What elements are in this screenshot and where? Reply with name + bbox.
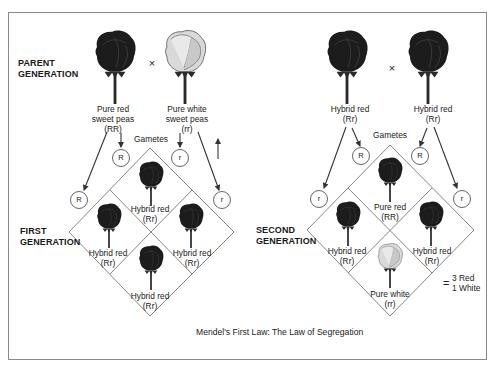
offspring-rose-top xyxy=(139,162,163,206)
arrow-outer-right xyxy=(434,127,457,188)
label-line: Pure red xyxy=(374,202,406,212)
figure-caption: Mendel's First Law: The Law of Segregati… xyxy=(196,327,363,337)
label-line: (Rr) xyxy=(173,258,212,268)
label-line: Pure white xyxy=(370,289,410,299)
label-line: GENERATION xyxy=(18,69,78,80)
parent-label-pure-red: Pure red sweet peas (RR) xyxy=(92,104,134,134)
label-line: sweet peas xyxy=(166,114,208,124)
second-generation-label: SECOND GENERATION xyxy=(256,225,316,247)
label-line: (Rr) xyxy=(414,114,453,124)
gamete-outer-1: r xyxy=(318,194,321,204)
gamete-inner-2: R xyxy=(417,151,422,161)
arrow-inner-right xyxy=(420,128,427,146)
offspring-rose-right xyxy=(419,202,443,246)
parent-label-hybrid-2: Hybrid red (Rr) xyxy=(414,104,453,124)
label-line: (Rr) xyxy=(131,214,170,224)
label-line: Hybrid red xyxy=(89,248,128,258)
offspring-label-left: Hybrid red (Rr) xyxy=(328,246,367,266)
gametes-label-left: Gametes xyxy=(134,134,168,144)
label-line: (RR) xyxy=(92,124,134,134)
parent-generation-label: PARENT GENERATION xyxy=(18,58,78,80)
parent-label-pure-white: Pure white sweet peas (rr) xyxy=(166,104,208,134)
offspring-label-top: Hybrid red (Rr) xyxy=(131,204,170,224)
label-line: Hybrid red xyxy=(414,104,453,114)
gamete-inner-1: R xyxy=(358,151,363,161)
cross-symbol-right: × xyxy=(389,63,395,73)
label-line: Hybrid red xyxy=(131,204,170,214)
label-line: Pure white xyxy=(166,104,208,114)
offspring-label-right: Hybrid red (Rr) xyxy=(173,248,212,268)
label-line: Hybrid red xyxy=(331,104,370,114)
gamete-outer-2: r xyxy=(461,194,464,204)
label-line: (rr) xyxy=(166,124,208,134)
label-line: (Rr) xyxy=(328,256,367,266)
label-line: Hybrid red xyxy=(328,246,367,256)
arrow-inner-left xyxy=(352,128,360,146)
mendel-figure: PARENT GENERATION FIRST GENERATION × Pur… xyxy=(0,0,496,377)
label-line: Hybrid red xyxy=(413,246,452,256)
label-line: (Rr) xyxy=(331,114,370,124)
label-line: (Rr) xyxy=(89,258,128,268)
offspring-rose-top xyxy=(378,158,402,202)
label-line: Hybrid red xyxy=(131,291,170,301)
arrow-outer-left xyxy=(324,127,346,188)
gamete-inner-1: R xyxy=(118,153,123,163)
parent-rose-hybrid-2 xyxy=(409,31,449,104)
label-line: (Rr) xyxy=(413,256,452,266)
label-line: GENERATION xyxy=(20,237,80,248)
gamete-outer-1: R xyxy=(76,195,81,205)
parent-rose-hybrid-1 xyxy=(328,31,368,104)
offspring-label-top: Pure red (RR) xyxy=(374,202,406,222)
offspring-rose-right xyxy=(179,204,203,248)
ratio-line: 3 Red xyxy=(452,273,480,283)
offspring-rose-left xyxy=(336,202,360,246)
label-line: sweet peas xyxy=(92,114,134,124)
gamete-inner-2: r xyxy=(179,153,182,163)
offspring-rose-bottom xyxy=(139,246,163,290)
parent-rose-red xyxy=(96,31,136,104)
offspring-label-bottom: Pure white (rr) xyxy=(370,289,410,309)
arrow-red-outer xyxy=(84,132,107,190)
offspring-label-left: Hybrid red (Rr) xyxy=(89,248,128,268)
ratio-equals: = xyxy=(443,277,449,289)
offspring-rose-left xyxy=(97,204,121,248)
left-panel xyxy=(69,31,234,316)
first-generation-label: FIRST GENERATION xyxy=(20,226,80,248)
diagram-canvas xyxy=(0,0,496,377)
gametes-label-right: Gametes xyxy=(373,130,407,140)
label-line: PARENT xyxy=(18,58,78,69)
offspring-rose-bottom-white xyxy=(378,244,402,288)
label-line: Hybrid red xyxy=(173,248,212,258)
cross-symbol-left: × xyxy=(149,58,155,68)
ratio-text: 3 Red 1 White xyxy=(452,273,480,293)
arrow-white-outer xyxy=(198,132,219,190)
label-line: SECOND xyxy=(256,225,316,236)
label-line: GENERATION xyxy=(256,236,316,247)
gamete-outer-2: r xyxy=(221,195,224,205)
ratio-line: 1 White xyxy=(452,283,480,293)
parent-label-hybrid-1: Hybrid red (Rr) xyxy=(331,104,370,124)
offspring-label-right: Hybrid red (Rr) xyxy=(413,246,452,266)
label-line: (RR) xyxy=(374,212,406,222)
parent-rose-white xyxy=(166,31,206,104)
offspring-label-bottom: Hybrid red (Rr) xyxy=(131,291,170,311)
label-line: (Rr) xyxy=(131,301,170,311)
label-line: Pure red xyxy=(92,104,134,114)
label-line: FIRST xyxy=(20,226,80,237)
label-line: (rr) xyxy=(370,299,410,309)
